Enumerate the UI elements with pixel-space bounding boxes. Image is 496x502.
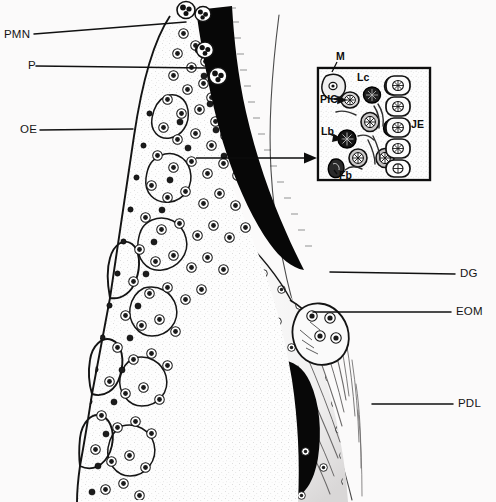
leader-oe bbox=[40, 129, 133, 130]
label-inset-lc: Lc bbox=[357, 72, 370, 83]
label-eom: EOM bbox=[456, 306, 483, 318]
label-inset-fb: Fb bbox=[339, 170, 352, 181]
inset-junctional-epithelium bbox=[386, 76, 410, 177]
histology-figure: PMN P OE DG EOM PDL M Lc PIC Lb JE Fb bbox=[0, 0, 496, 502]
label-inset-lb: Lb bbox=[321, 126, 334, 137]
label-inset-je: JE bbox=[411, 119, 424, 130]
label-pdl: PDL bbox=[458, 398, 481, 410]
label-inset-m: M bbox=[336, 51, 345, 62]
label-pmn: PMN bbox=[4, 29, 30, 41]
label-p: P bbox=[28, 60, 36, 72]
label-inset-pic: PIC bbox=[320, 94, 338, 105]
histology-illustration bbox=[0, 0, 496, 502]
label-oe: OE bbox=[20, 124, 37, 136]
label-dg: DG bbox=[460, 268, 478, 280]
